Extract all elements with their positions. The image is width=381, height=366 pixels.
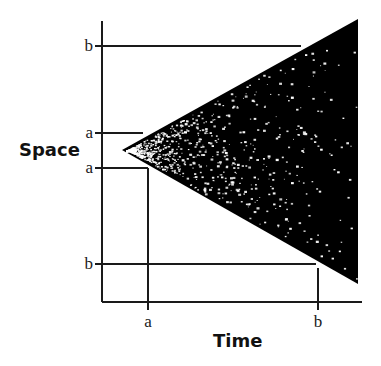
marker-label: b [85, 36, 94, 55]
marker-label: b [85, 254, 94, 273]
time-marker-b: b [314, 268, 323, 331]
time-marker-a: a [144, 168, 152, 331]
marker-label: b [314, 312, 323, 331]
light-cone-wedge [122, 19, 358, 284]
time-axis-title: Time [213, 330, 262, 351]
marker-label: a [85, 158, 93, 177]
space-time-diagram: b a a b a b Space Time [0, 0, 381, 366]
space-axis-title: Space [19, 139, 80, 160]
marker-label: a [85, 123, 93, 142]
space-marker-b-upper: b [85, 36, 302, 55]
marker-label: a [144, 312, 152, 331]
space-marker-b-lower: b [85, 254, 317, 273]
space-marker-a-lower: a [85, 158, 148, 177]
space-marker-a-upper: a [85, 123, 143, 142]
